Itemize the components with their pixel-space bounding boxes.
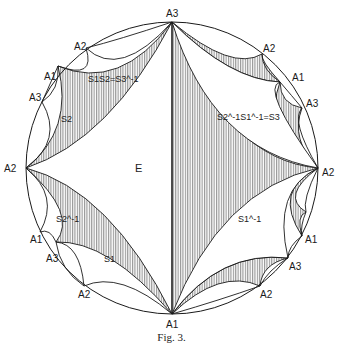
svg-text:A3: A3 [29,92,42,103]
label-region-S3: S2^-1S1^-1=S3 [217,112,280,122]
svg-text:S1: S1 [104,254,115,264]
svg-text:A1: A1 [305,234,318,245]
label-ul-inner: A3 [29,92,42,103]
svg-text:A3: A3 [46,253,59,264]
svg-text:S2^-1: S2^-1 [56,214,79,224]
svg-text:A2: A2 [263,43,276,54]
label-ll-inner: A3 [46,253,59,264]
shaded-region-upper-left [26,22,172,168]
label-ll-mid: A1 [30,234,43,245]
label-lr-inner: A3 [289,261,302,272]
svg-text:A2: A2 [260,289,273,300]
label-ul-mid: A1 [44,71,57,82]
svg-text:E: E [135,162,142,174]
shaded-region-lower-left [26,168,172,314]
svg-text:A3: A3 [166,8,179,19]
label-ur-inner: A3 [306,98,319,109]
svg-text:A2: A2 [4,163,17,174]
svg-text:A2: A2 [74,41,87,52]
label-region-S1-inv: S1^-1 [238,214,261,224]
label-region-S2: S2 [61,114,72,124]
label-lr-outer: A2 [260,289,273,300]
svg-text:A1: A1 [44,71,57,82]
figure-caption: Fig. 3. [0,331,343,343]
svg-text:A3: A3 [306,98,319,109]
svg-text:A2: A2 [322,167,335,178]
svg-text:S1S2=S3^-1: S1S2=S3^-1 [88,74,139,84]
svg-text:A1: A1 [166,319,179,330]
label-region-S2-inverse: S2^-1 [56,214,79,224]
label-ur-mid: A1 [292,72,305,83]
label-lr-mid: A1 [305,234,318,245]
svg-text:S1^-1: S1^-1 [238,214,261,224]
svg-text:A1: A1 [30,234,43,245]
label-region-S1: S1 [104,254,115,264]
label-ul-outer: A2 [74,41,87,52]
label-top-vertex: A3 [166,8,179,19]
hyperbolic-tiling-figure: A3 A1 A2 A2 A2 A1 A3 A2 A1 A3 A1 A3 A2 A… [0,0,343,352]
label-left-vertex: A2 [4,163,17,174]
svg-text:A1: A1 [292,72,305,83]
svg-text:S2: S2 [61,114,72,124]
svg-text:A2: A2 [78,289,91,300]
label-region-E: E [135,162,142,174]
svg-text:S2^-1S1^-1=S3: S2^-1S1^-1=S3 [217,112,280,122]
label-ur-outer: A2 [263,43,276,54]
label-bottom-vertex: A1 [166,319,179,330]
label-ll-outer: A2 [78,289,91,300]
label-region-upper-left: S1S2=S3^-1 [88,74,139,84]
label-right-vertex: A2 [322,167,335,178]
svg-text:A3: A3 [289,261,302,272]
